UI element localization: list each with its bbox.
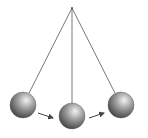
pendulum-strings [29,8,115,103]
ball-left [10,92,36,118]
arrow-icon [89,113,104,118]
string-left [29,8,72,93]
string-right [72,8,115,93]
ball-right [108,92,134,118]
ball-center [59,103,85,129]
arrow-icon [38,113,53,118]
pivot-point [71,7,73,9]
pendulum-diagram [0,0,148,138]
